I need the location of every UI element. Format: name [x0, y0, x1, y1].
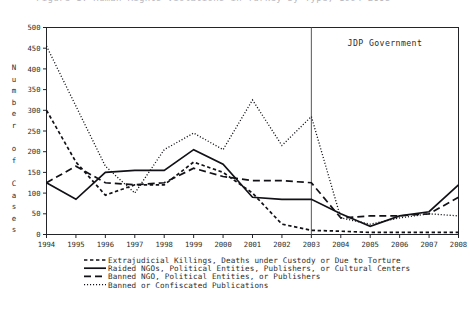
y-axis-title-char: s [12, 202, 16, 211]
y-axis-tick-label: 400 [28, 65, 41, 74]
y-axis-title-char: u [12, 75, 16, 84]
y-axis-title-char: e [12, 109, 17, 118]
x-axis-tick-label: 2007 [420, 240, 437, 249]
series-line-2 [47, 150, 459, 227]
y-axis: 050100150200250300350400450500 [28, 23, 47, 239]
jdp-government-label: JDP Government [348, 38, 423, 48]
x-axis-tick-label: 2006 [391, 240, 408, 249]
x-axis-tick-label: 2004 [332, 240, 349, 249]
x-axis-tick-label: 1998 [156, 240, 173, 249]
y-axis-tick-label: 50 [32, 209, 41, 218]
y-axis-tick-label: 200 [28, 147, 41, 156]
x-axis-tick-label: 1997 [126, 240, 143, 249]
y-axis-tick-label: 350 [28, 85, 41, 94]
x-axis-tick-label: 1999 [185, 240, 202, 249]
x-axis-tick-label: 2008 [450, 240, 467, 249]
x-axis-tick-label: 2000 [214, 240, 231, 249]
plot-frame [47, 28, 459, 235]
y-axis-tick-label: 150 [28, 168, 41, 177]
y-axis-tick-label: 250 [28, 127, 41, 136]
y-axis-tick-label: 500 [28, 23, 41, 32]
y-axis-title-char: C [12, 179, 16, 188]
x-axis-tick-label: 1995 [67, 240, 84, 249]
x-axis-tick-label: 2003 [303, 240, 320, 249]
y-axis-tick-label: 300 [28, 106, 41, 115]
x-axis-tick-label: 1994 [38, 240, 55, 249]
jdp-government-annotation: JDP Government [348, 38, 423, 48]
y-axis-tick-label: 100 [28, 189, 41, 198]
x-axis-tick-label: 2005 [362, 240, 379, 249]
series-line-3 [47, 166, 459, 218]
y-axis-title-char: e [12, 214, 17, 223]
x-axis-tick-label: 2002 [273, 240, 290, 249]
legend-label-4: Banned or Confiscated Publications [108, 281, 269, 290]
x-axis: 1994199519961997199819992000200120022003… [38, 235, 467, 250]
y-axis-title-char: b [12, 98, 17, 107]
y-axis-tick-label: 0 [36, 230, 40, 239]
y-axis-title-char: N [12, 63, 16, 72]
y-axis-title-char: m [12, 86, 17, 95]
y-axis-title: NumberofCases [12, 63, 17, 234]
x-axis-tick-label: 1996 [97, 240, 114, 249]
y-axis-title-char: a [12, 191, 16, 200]
y-axis-title-char: s [12, 225, 16, 234]
x-axis-tick-label: 2001 [244, 240, 261, 249]
series-lines [47, 46, 459, 232]
y-axis-title-char: f [12, 156, 16, 165]
human-rights-violations-line-chart: 050100150200250300350400450500 NumberofC… [0, 0, 471, 313]
y-axis-title-char: r [12, 121, 17, 130]
y-axis-tick-label: 450 [28, 44, 41, 53]
chart-legend: Extrajudicial Killings, Deaths under Cus… [84, 256, 410, 290]
y-axis-title-char: o [12, 144, 16, 153]
